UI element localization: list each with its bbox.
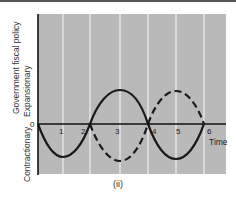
fiscal-policy-chart: 0 1 2 3 4 5 6 Time <box>0 0 236 197</box>
x-tick-4: 4 <box>152 127 157 136</box>
x-tick-3: 3 <box>115 127 120 136</box>
figure-caption: (ii) <box>0 179 236 189</box>
x-tick-5: 5 <box>176 127 181 136</box>
x-tick-2: 2 <box>81 127 86 136</box>
y-axis-title: Government fiscal policy <box>11 21 21 114</box>
y-region-labels: Expansionary Contractionary <box>22 14 34 174</box>
x-tick-6: 6 <box>207 127 212 136</box>
y-label-expansionary: Expansionary <box>22 65 32 117</box>
x-axis-title: Time <box>209 137 228 147</box>
x-tick-1: 1 <box>59 127 64 136</box>
y-label-contractionary: Contractionary <box>22 127 32 182</box>
